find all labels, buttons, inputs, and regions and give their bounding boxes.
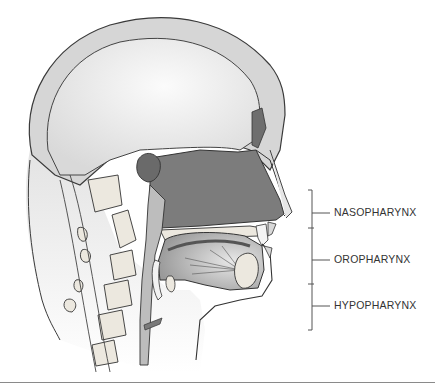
pharynx-anatomy-diagram <box>0 0 435 391</box>
label-hypopharynx: HYPOPHARYNX <box>334 299 417 311</box>
label-nasopharynx: NASOPHARYNX <box>334 206 417 218</box>
upper-teeth <box>256 224 268 246</box>
pharynx-bracket <box>308 190 330 330</box>
sphenoid-sinus <box>137 153 161 182</box>
bottom-rule <box>0 382 435 383</box>
label-oropharynx: OROPHARYNX <box>334 253 411 265</box>
nasal-cavity <box>150 150 292 228</box>
